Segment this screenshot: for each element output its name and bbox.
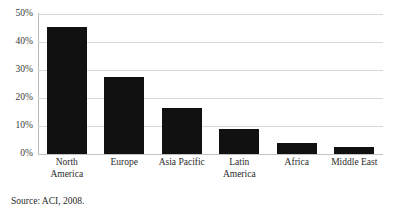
clipped-chart-title — [38, 0, 338, 4]
x-axis-label-europe: Europe — [96, 157, 154, 169]
y-axis-tick-label: 20% — [0, 93, 33, 103]
x-axis-label-asia-pacific: Asia Pacific — [153, 157, 211, 169]
x-axis-label-latin-america: LatinAmerica — [211, 157, 269, 180]
bar-slot — [96, 14, 154, 154]
bar-slot — [268, 14, 326, 154]
x-axis-label-north-america: NorthAmerica — [38, 157, 96, 180]
x-axis-label-line: Latin — [211, 157, 269, 169]
bar-latin-america — [219, 129, 259, 154]
y-axis-tick-label: 30% — [0, 65, 33, 75]
x-axis-label-line: Europe — [96, 157, 154, 169]
y-axis-tick-label: 0% — [0, 149, 33, 159]
y-axis-tick-label: 40% — [0, 37, 33, 47]
bar-middle-east — [334, 147, 374, 154]
x-axis-label-line: Asia Pacific — [153, 157, 211, 169]
chart-figure: 0%10%20%30%40%50% NorthAmericaEuropeAsia… — [0, 0, 394, 216]
bar-slot — [326, 14, 384, 154]
gridline — [38, 154, 383, 155]
bar-asia-pacific — [162, 108, 202, 154]
x-axis-label-line: America — [211, 169, 269, 181]
y-axis-tick-label: 50% — [0, 9, 33, 19]
bar-europe — [104, 77, 144, 154]
x-axis-label-africa: Africa — [268, 157, 326, 169]
x-axis-label-middle-east: Middle East — [326, 157, 384, 169]
x-axis-label-line: Middle East — [326, 157, 384, 169]
x-axis-category-labels: NorthAmericaEuropeAsia PacificLatinAmeri… — [38, 157, 383, 187]
x-axis-label-line: America — [38, 169, 96, 181]
x-axis-label-line: Africa — [268, 157, 326, 169]
y-axis-tick-label: 10% — [0, 121, 33, 131]
bar-north-america — [47, 27, 87, 154]
bar-slot — [38, 14, 96, 154]
bar-africa — [277, 143, 317, 154]
source-note: Source: ACI, 2008. — [11, 196, 84, 207]
bar-slot — [211, 14, 269, 154]
bar-series — [38, 14, 383, 154]
x-axis-label-line: North — [38, 157, 96, 169]
bar-slot — [153, 14, 211, 154]
